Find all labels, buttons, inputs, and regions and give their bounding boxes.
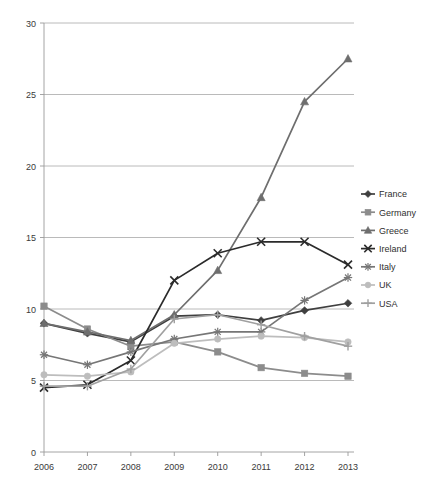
x-tick-label: 2007: [77, 462, 97, 472]
marker-square: [301, 370, 307, 376]
legend-item-label: France: [379, 189, 407, 199]
marker-square: [215, 349, 221, 355]
marker-asterisk: [40, 351, 48, 359]
legend-item-label: Germany: [379, 208, 417, 218]
marker-square: [365, 209, 371, 215]
marker-asterisk: [127, 348, 135, 356]
legend-item-label: UK: [379, 280, 392, 290]
y-tick-label: 5: [31, 376, 36, 386]
marker-asterisk: [214, 328, 222, 336]
marker-square: [41, 303, 47, 309]
marker-square: [345, 373, 351, 379]
marker-circle: [365, 282, 371, 288]
y-tick-label: 25: [26, 90, 36, 100]
x-tick-label: 2013: [338, 462, 358, 472]
marker-circle: [258, 333, 264, 339]
marker-circle: [84, 373, 90, 379]
y-tick-label: 20: [26, 162, 36, 172]
x-tick-label: 2008: [121, 462, 141, 472]
marker-asterisk: [83, 361, 91, 369]
y-tick-label: 15: [26, 233, 36, 243]
y-tick-label: 0: [31, 448, 36, 458]
marker-asterisk: [300, 296, 308, 304]
legend-item-label: Greece: [379, 226, 409, 236]
x-tick-label: 2006: [34, 462, 54, 472]
chart-background: [0, 0, 426, 487]
y-tick-label: 30: [26, 19, 36, 29]
line-chart: 051015202530 200620072008200920102011201…: [0, 0, 426, 487]
marker-asterisk: [344, 273, 352, 281]
legend-item-label: USA: [379, 299, 398, 309]
y-tick-label: 10: [26, 305, 36, 315]
x-tick-label: 2011: [251, 462, 270, 472]
legend-item-label: Ireland: [379, 244, 407, 254]
chart-canvas: 051015202530 200620072008200920102011201…: [0, 0, 426, 487]
marker-asterisk: [364, 263, 372, 271]
marker-circle: [41, 372, 47, 378]
marker-circle: [171, 340, 177, 346]
x-tick-label: 2012: [295, 462, 315, 472]
x-tick-label: 2009: [164, 462, 184, 472]
marker-circle: [215, 336, 221, 342]
marker-square: [258, 364, 264, 370]
legend-item-label: Italy: [379, 262, 396, 272]
x-tick-label: 2010: [208, 462, 228, 472]
